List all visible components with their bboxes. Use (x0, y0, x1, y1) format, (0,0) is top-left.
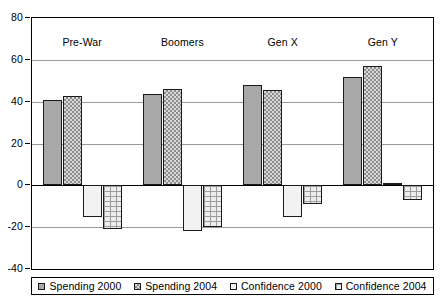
bar (303, 185, 322, 204)
bar (283, 185, 302, 216)
bar (43, 100, 62, 186)
y-tick-label: -20 (8, 221, 23, 232)
bar (63, 96, 82, 185)
y-tick-mark (25, 184, 30, 185)
bar (143, 94, 162, 185)
y-tick-label: 40 (11, 95, 23, 106)
legend-swatch-icon (38, 283, 45, 290)
legend-swatch-icon (134, 283, 141, 290)
legend-item: Confidence 2004 (335, 281, 427, 292)
bars (32, 18, 132, 269)
bar (163, 89, 182, 185)
legend-label: Confidence 2004 (346, 281, 427, 292)
bars (333, 18, 433, 269)
bars (233, 18, 333, 269)
bar (203, 185, 222, 227)
bar-group: Gen X (233, 18, 333, 269)
y-tick-label: 0 (17, 179, 23, 190)
bar (243, 85, 262, 185)
bar-chart: 806040200-20-40 Pre-WarBoomersGen XGen Y… (0, 0, 440, 299)
legend-item: Spending 2004 (134, 281, 217, 292)
bar-group: Boomers (132, 18, 232, 269)
bar (363, 66, 382, 185)
y-tick-label: 80 (11, 12, 23, 23)
y-tick-label: 60 (11, 54, 23, 65)
bar (263, 90, 282, 185)
bar (103, 185, 122, 229)
y-tick-mark (25, 101, 30, 102)
bar (183, 185, 202, 231)
bar (403, 185, 422, 200)
bars (132, 18, 232, 269)
y-tick-mark (25, 226, 30, 227)
legend-item: Confidence 2000 (230, 281, 322, 292)
bar (343, 77, 362, 186)
bar (383, 183, 402, 185)
legend-item: Spending 2000 (38, 281, 121, 292)
y-tick-label: -40 (8, 263, 23, 274)
bar-group: Pre-War (32, 18, 132, 269)
legend-label: Confidence 2000 (241, 281, 322, 292)
plot-area: Pre-WarBoomersGen XGen Y (31, 17, 434, 270)
bar-group: Gen Y (333, 18, 433, 269)
chart-legend: Spending 2000Spending 2004Confidence 200… (31, 277, 434, 295)
y-tick-label: 20 (11, 137, 23, 148)
legend-label: Spending 2004 (145, 281, 217, 292)
y-tick-mark (25, 143, 30, 144)
legend-label: Spending 2000 (49, 281, 121, 292)
legend-swatch-icon (335, 283, 342, 290)
legend-swatch-icon (230, 283, 237, 290)
y-tick-mark (25, 17, 30, 18)
y-tick-mark (25, 59, 30, 60)
y-tick-mark (25, 268, 30, 269)
y-axis: 806040200-20-40 (0, 0, 30, 299)
bar (83, 185, 102, 216)
